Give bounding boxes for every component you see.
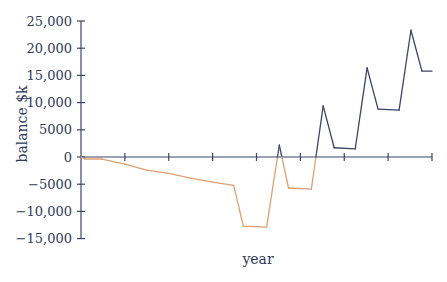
negative-balance-segment xyxy=(213,182,234,185)
negative-balance-segment xyxy=(125,164,147,170)
x-axis xyxy=(81,153,432,161)
negative-balance-segment xyxy=(234,185,244,226)
positive-balance-segment xyxy=(279,145,282,157)
positive-balance-segment xyxy=(367,68,378,109)
y-tick-label: 5000 xyxy=(39,122,72,137)
y-tick-label: 25,000 xyxy=(27,14,73,29)
negative-balance-segment xyxy=(169,173,191,178)
negative-balance-segment xyxy=(243,226,266,227)
positive-balance-segment xyxy=(316,106,323,157)
negative-balance-segment xyxy=(282,157,289,188)
negative-balance-segment xyxy=(267,157,278,227)
positive-balance-segment xyxy=(323,106,334,148)
balance-line-chart: 25,00020,00015,00010,00050000−5000−10,00… xyxy=(0,0,447,282)
positive-balance-segment xyxy=(355,68,367,149)
positive-balance-segment xyxy=(334,148,355,149)
negative-balance-segment xyxy=(289,188,312,189)
negative-balance-segment xyxy=(147,170,169,173)
y-tick-label: −5000 xyxy=(28,177,72,192)
y-tick-label: 0 xyxy=(64,150,72,165)
y-tick-label: −10,000 xyxy=(16,204,72,219)
y-tick-label: 20,000 xyxy=(27,41,73,56)
y-axis-title: balance $k xyxy=(14,85,30,163)
positive-balance-segment xyxy=(378,109,399,110)
x-axis-title: year xyxy=(241,251,274,267)
y-tick-label: −15,000 xyxy=(16,231,72,246)
positive-balance-segment xyxy=(399,30,411,110)
negative-balance-segment xyxy=(191,178,213,182)
y-tick-label: 10,000 xyxy=(27,95,73,110)
negative-balance-segment xyxy=(102,159,125,164)
y-tick-label: 15,000 xyxy=(27,68,73,83)
balance-series xyxy=(81,30,432,227)
negative-balance-segment xyxy=(311,157,316,189)
positive-balance-segment xyxy=(411,30,422,71)
